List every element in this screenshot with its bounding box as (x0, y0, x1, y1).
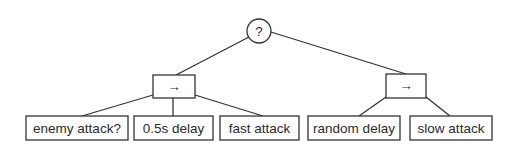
sequence-arrow-icon: → (399, 78, 413, 93)
edge-seq1-to-enemy-attack (82, 95, 153, 116)
sequence-arrow-icon: → (167, 79, 181, 94)
sequence-node-1: → (153, 75, 195, 98)
edge-seq2-to-slow-attack (426, 97, 450, 116)
leaf-node: enemy attack? (26, 116, 128, 140)
edge-seq1-to-fast-attack (195, 95, 263, 116)
leaf-label-enemy-attack: enemy attack? (33, 121, 121, 136)
selector-symbol: ? (255, 24, 263, 39)
leaf-node: random delay (308, 116, 400, 140)
behavior-tree-diagram: ? → → enemy attack? 0.5s delay fast atta… (0, 0, 517, 156)
leaf-label-slow-attack: slow attack (418, 121, 485, 136)
edge-root-to-sequence-1 (176, 37, 249, 75)
sequence-node-2: → (386, 74, 426, 98)
leaf-node: 0.5s delay (134, 116, 213, 140)
edge-root-to-sequence-2 (271, 32, 406, 74)
edge-seq2-to-random-delay (359, 97, 386, 116)
leaf-node: fast attack (220, 116, 299, 140)
leaf-label-fast-attack: fast attack (229, 121, 291, 136)
leaf-label-delay: 0.5s delay (143, 121, 205, 136)
leaf-label-random-delay: random delay (313, 121, 395, 136)
selector-node: ? (247, 19, 271, 43)
leaf-node: slow attack (410, 116, 492, 140)
